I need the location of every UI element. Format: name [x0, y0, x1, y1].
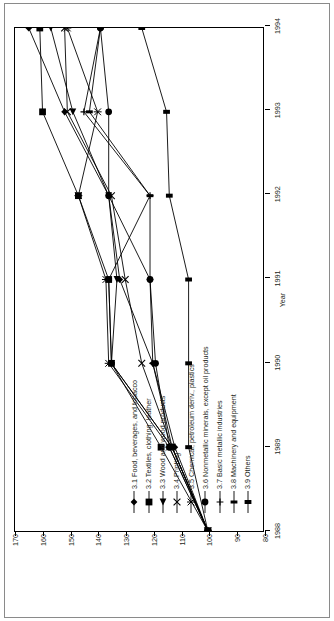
legend-item: 3.7 Basic metallic industries — [212, 346, 226, 515]
legend-marker-asterisk-icon — [184, 489, 198, 515]
data-point-asterisk — [94, 108, 102, 115]
y-tick-label: 130 — [122, 534, 131, 568]
legend-item: 3.3 Wood and wood products — [156, 346, 170, 515]
legend-label: 3.8 Machinery and equipment — [230, 394, 237, 489]
data-point-triangle — [69, 108, 76, 115]
figure: 3.1 Food, beverages, and tobacco3.2 Text… — [8, 8, 296, 592]
data-point-bar — [108, 362, 115, 365]
y-tick-label: 100 — [205, 534, 214, 568]
legend-label: 3.2 Textiles, clothing, leather — [145, 398, 152, 489]
y-tick-label: 90 — [233, 534, 242, 568]
data-point-bar — [105, 278, 112, 281]
legend-label: 3.7 Basic metallic industries — [216, 400, 223, 489]
legend-item: 3.8 Machinery and equipment — [227, 346, 241, 515]
legend-label: 3.5 Chemical, petroleum deriv., plastics — [188, 364, 195, 489]
rotated-figure-wrapper: 3.1 Food, beverages, and tobacco3.2 Text… — [0, 0, 300, 600]
data-point-bar2 — [166, 194, 173, 198]
data-point-bar2 — [163, 110, 170, 114]
legend-marker-bar2-icon — [241, 489, 255, 515]
y-tick-label: 150 — [66, 534, 75, 568]
x-tick-mark — [265, 530, 270, 531]
data-point-circle — [105, 192, 112, 199]
x-tick-mark — [265, 446, 270, 447]
legend-label: 3.9 Others — [244, 455, 251, 489]
x-axis-title: Year — [278, 8, 287, 592]
plot-area: 3.1 Food, beverages, and tobacco3.2 Text… — [14, 27, 264, 532]
data-point-diamond — [131, 499, 138, 506]
data-point-bar — [86, 110, 93, 113]
y-tick-label: 170 — [11, 534, 20, 568]
legend-marker-square-icon — [142, 489, 156, 515]
y-tick-label: 110 — [177, 534, 186, 568]
legend-marker-diamond-icon — [127, 489, 141, 515]
data-point-bar — [97, 28, 104, 29]
data-point-diamond — [25, 28, 32, 31]
legend-label: 3.3 Wood and wood products — [159, 396, 166, 489]
legend-marker-bar-icon — [227, 489, 241, 515]
legend-item: 3.6 Nonmetallic minerals, except oil pro… — [198, 346, 212, 515]
legend-label: 3.4 Printing — [173, 453, 180, 489]
legend-item: 3.2 Textiles, clothing, leather — [142, 346, 156, 515]
legend: 3.1 Food, beverages, and tobacco3.2 Text… — [127, 346, 255, 515]
x-tick-mark — [265, 362, 270, 363]
x-tick-mark — [265, 278, 270, 279]
data-point-bar2 — [138, 28, 145, 30]
legend-label: 3.6 Nonmetallic minerals, except oil pro… — [202, 346, 209, 489]
legend-label: 3.1 Food, beverages, and tobacco — [131, 380, 138, 489]
data-point-bar — [230, 501, 237, 504]
data-point-triangle — [47, 28, 54, 31]
data-point-square — [36, 28, 43, 31]
legend-item: 3.5 Chemical, petroleum deriv., plastics — [184, 346, 198, 515]
y-tick-label: 160 — [38, 534, 47, 568]
data-point-square — [39, 108, 46, 115]
data-point-plus — [216, 499, 223, 506]
legend-item: 3.1 Food, beverages, and tobacco — [127, 346, 141, 515]
legend-marker-x-icon — [170, 489, 184, 515]
y-tick-label: 120 — [149, 534, 158, 568]
data-point-square — [145, 499, 152, 506]
legend-marker-circle-icon — [198, 489, 212, 515]
data-point-bar2 — [245, 500, 252, 504]
data-point-circle — [202, 499, 209, 506]
legend-item: 3.9 Others — [241, 346, 255, 515]
legend-item: 3.4 Printing — [170, 346, 184, 515]
legend-marker-triangle-icon — [156, 489, 170, 515]
x-tick-mark — [265, 193, 270, 194]
x-tick-mark — [265, 25, 270, 26]
legend-marker-plus-icon — [213, 489, 227, 515]
data-point-bar — [147, 194, 154, 197]
data-point-circle — [105, 108, 112, 115]
y-tick-label: 140 — [94, 534, 103, 568]
y-tick-label: 80 — [261, 534, 270, 568]
data-point-bar2 — [185, 278, 192, 282]
chart-page: 3.1 Food, beverages, and tobacco3.2 Text… — [0, 0, 334, 621]
data-point-triangle — [159, 499, 166, 506]
x-tick-mark — [265, 109, 270, 110]
